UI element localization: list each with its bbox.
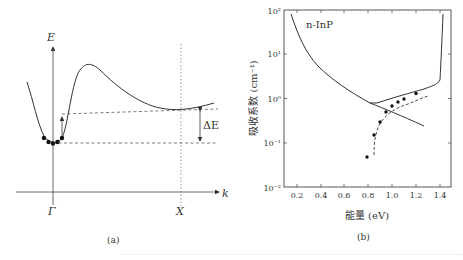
intervalley-fit-dashed (374, 96, 428, 155)
svg-text:10⁻²: 10⁻² (263, 184, 281, 193)
panel-b-absorption-chart: 0.2 0.4 0.6 0.8 1.0 1.2 1.4 10⁻² 10⁻¹ 10… (247, 7, 451, 242)
svg-text:0.4: 0.4 (315, 191, 328, 200)
x-ticks (297, 10, 440, 187)
y-tick-labels: 10⁻² 10⁻¹ 10⁰ 10¹ 10² (263, 7, 281, 193)
svg-text:10¹: 10¹ (268, 50, 281, 59)
svg-text:10⁻¹: 10⁻¹ (263, 139, 281, 148)
y-ticks (284, 54, 451, 143)
y-axis-label: 吸收系数 (cm⁻¹) (247, 60, 259, 135)
material-label: n-InP (306, 19, 333, 30)
plot-frame (284, 10, 451, 187)
svg-text:0.2: 0.2 (291, 191, 304, 200)
svg-text:0.8: 0.8 (362, 191, 375, 200)
svg-text:1.0: 1.0 (386, 191, 399, 200)
svg-text:10²: 10² (268, 7, 281, 16)
x-axis-label: 能量 (eV) (345, 209, 389, 221)
svg-text:0.6: 0.6 (338, 191, 351, 200)
figure-canvas: E k Γ X ΔE (a) (0, 0, 463, 260)
e-axis-label: E (46, 31, 55, 44)
panel-a-caption: (a) (107, 235, 119, 245)
delta-e-label: ΔE (203, 119, 219, 132)
gamma-tick-label: Γ (47, 205, 56, 218)
panel-b-caption: (b) (357, 232, 370, 242)
clipped-caption-text (120, 254, 463, 260)
measured-points (365, 92, 417, 159)
x-level-dashed (62, 109, 218, 114)
free-carrier-curve (370, 103, 424, 126)
panel-a-band-diagram: E k Γ X ΔE (a) (16, 31, 229, 245)
svg-text:10⁰: 10⁰ (268, 95, 281, 104)
svg-text:1.2: 1.2 (410, 191, 423, 200)
k-axis-label: k (222, 187, 229, 200)
x-tick-labels: 0.2 0.4 0.6 0.8 1.0 1.2 1.4 (291, 191, 447, 200)
conduction-band-curve (27, 64, 214, 142)
x-tick-label: X (175, 205, 185, 218)
svg-text:1.4: 1.4 (434, 191, 447, 200)
